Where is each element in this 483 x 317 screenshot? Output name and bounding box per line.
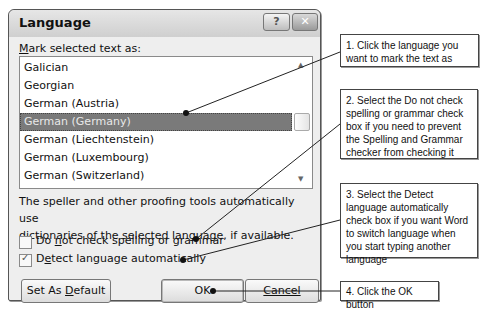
callout-leader-lines <box>0 0 483 317</box>
